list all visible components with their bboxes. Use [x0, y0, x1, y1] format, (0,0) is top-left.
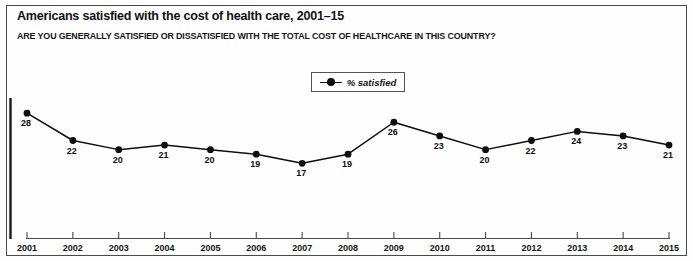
- chart-figure: Americans satisfied with the cost of hea…: [0, 0, 693, 261]
- data-value-label: 28: [21, 118, 31, 128]
- line-chart-plot: [0, 0, 693, 261]
- legend-marker-icon: [320, 78, 342, 86]
- x-axis-tick-label: 2015: [659, 243, 679, 253]
- legend-label: % satisfied: [347, 77, 397, 88]
- data-point: [69, 137, 76, 144]
- data-value-label: 19: [250, 159, 260, 169]
- data-point: [574, 128, 581, 135]
- data-value-label: 20: [480, 155, 490, 165]
- data-point: [390, 119, 397, 126]
- data-point: [207, 146, 214, 153]
- x-axis-tick-label: 2011: [476, 243, 496, 253]
- x-axis-ticks: [27, 232, 669, 239]
- data-value-label: 26: [388, 127, 398, 137]
- data-value-label: 19: [342, 159, 352, 169]
- x-axis-tick-label: 2006: [246, 243, 266, 253]
- x-axis-tick-label: 2014: [613, 243, 633, 253]
- data-point: [299, 160, 306, 167]
- x-axis-tick-label: 2002: [63, 243, 83, 253]
- data-point: [253, 151, 260, 158]
- data-point: [482, 146, 489, 153]
- data-point: [161, 142, 168, 149]
- data-value-label: 21: [663, 150, 673, 160]
- x-axis-tick-label: 2013: [567, 243, 587, 253]
- x-axis-tick-label: 2008: [338, 243, 358, 253]
- data-value-label: 24: [571, 136, 581, 146]
- data-point: [528, 137, 535, 144]
- x-axis-tick-label: 2004: [155, 243, 175, 253]
- data-point: [345, 151, 352, 158]
- x-axis-tick-label: 2009: [384, 243, 404, 253]
- data-point: [666, 142, 673, 149]
- data-point: [436, 133, 443, 140]
- data-value-label: 20: [113, 155, 123, 165]
- x-axis-tick-label: 2003: [109, 243, 129, 253]
- x-axis-tick-label: 2005: [200, 243, 220, 253]
- x-axis-tick-label: 2007: [292, 243, 312, 253]
- data-value-label: 20: [204, 155, 214, 165]
- x-axis-tick-label: 2001: [17, 243, 37, 253]
- x-axis-tick-label: 2012: [521, 243, 541, 253]
- data-value-label: 21: [159, 150, 169, 160]
- data-point: [620, 133, 627, 140]
- data-value-label: 23: [434, 141, 444, 151]
- data-value-label: 22: [525, 146, 535, 156]
- data-value-label: 23: [617, 141, 627, 151]
- data-value-label: 22: [67, 146, 77, 156]
- data-value-label: 17: [296, 168, 306, 178]
- data-point: [115, 146, 122, 153]
- chart-legend: % satisfied: [311, 72, 405, 92]
- data-point: [24, 110, 31, 117]
- x-axis-tick-label: 2010: [430, 243, 450, 253]
